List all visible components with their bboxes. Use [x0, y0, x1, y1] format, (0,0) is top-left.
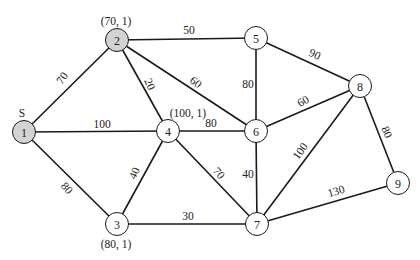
- node-2: 2: [106, 29, 129, 52]
- weighted-graph-diagram: 7010080502060804070308090604010080130 12…: [0, 0, 420, 260]
- edge-4-3: [117, 131, 168, 224]
- edge-weight-7-9: 130: [326, 183, 346, 200]
- node-6: 6: [245, 120, 268, 143]
- node-4: 4: [157, 120, 180, 143]
- edge-weight-8-7: 100: [290, 140, 310, 161]
- node-8: 8: [349, 75, 372, 98]
- node-2-annotation: (70, 1): [101, 15, 132, 28]
- edge-weight-6-7: 40: [242, 168, 254, 180]
- node-4-annotation: (100, 1): [170, 107, 207, 120]
- node-label: 6: [253, 125, 259, 139]
- edge-weight-5-6: 80: [242, 78, 254, 90]
- edge-1-4: [24, 131, 168, 132]
- node-3-annotation: (80, 1): [101, 238, 132, 251]
- edge-8-7: [257, 86, 360, 224]
- edge-weight-3-7: 30: [182, 210, 194, 222]
- node-label: 9: [395, 177, 401, 191]
- edge-1-3: [24, 132, 117, 224]
- edge-6-7: [256, 131, 257, 224]
- node-label: 4: [165, 125, 171, 139]
- edge-weight-4-3: 40: [126, 165, 142, 181]
- node-label: 7: [254, 218, 260, 232]
- node-label: 1: [21, 126, 27, 140]
- node-5: 5: [245, 27, 268, 50]
- edge-weight-1-4: 100: [93, 118, 111, 130]
- node-label: 2: [114, 34, 120, 48]
- edge-weight-5-8: 90: [307, 46, 323, 62]
- node-label: 3: [114, 218, 120, 232]
- edge-weights-layer: 7010080502060804070308090604010080130: [54, 24, 395, 222]
- edge-weight-8-9: 80: [379, 124, 395, 140]
- node-label: 8: [357, 80, 363, 94]
- edge-weight-6-8: 60: [295, 93, 311, 109]
- edge-weight-4-6: 80: [205, 117, 217, 129]
- edge-2-4: [117, 40, 168, 131]
- edges-layer: [24, 38, 398, 224]
- source-label: S: [19, 107, 25, 119]
- edge-weight-1-3: 80: [59, 180, 76, 197]
- edge-weight-1-2: 70: [54, 70, 71, 87]
- node-7: 7: [246, 213, 269, 236]
- edge-weight-2-5: 50: [183, 24, 195, 36]
- edge-2-5: [117, 38, 256, 40]
- node-1: 1: [13, 121, 36, 144]
- edge-5-8: [256, 38, 360, 86]
- node-9: 9: [387, 172, 410, 195]
- node-3: 3: [106, 213, 129, 236]
- edge-6-8: [256, 86, 360, 131]
- node-label: 5: [253, 32, 259, 46]
